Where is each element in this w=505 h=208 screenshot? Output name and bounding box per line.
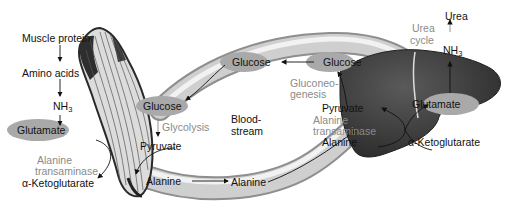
muscle-pyruvate-label: Pyruvate <box>140 141 181 152</box>
nh3-text: NH <box>53 100 68 112</box>
liver-glutamate-label: Glutamate <box>412 99 460 110</box>
liver-glucose-label: Glucose <box>323 57 362 68</box>
urea-cycle-label-line2: cycle <box>410 35 434 46</box>
muscle-enzyme-label-line2: transaminase <box>35 166 98 177</box>
muscle-nh3-label: NH3 <box>53 101 72 114</box>
liver-enzyme-label-line1: Alanine <box>313 115 348 126</box>
gluconeogenesis-label-line1: Gluconeo- <box>290 78 338 89</box>
bloodstream-label-line1: Blood- <box>231 114 261 125</box>
glycolysis-label: Glycolysis <box>162 122 209 133</box>
liver-enzyme-label-line2: transaminase <box>313 126 376 137</box>
muscle-glutamate-label: Glutamate <box>17 125 65 136</box>
liver-a-ketoglutarate-label: α-Ketoglutarate <box>408 137 480 148</box>
muscle-a-ketoglutarate-label: α-Ketoglutarate <box>22 178 94 189</box>
nh3-text: NH <box>443 44 458 56</box>
liver-nh3-label: NH3 <box>443 45 462 58</box>
glucose-alanine-cycle-diagram: Muscle protein Amino acids NH3 Glutamate… <box>0 0 505 208</box>
urea-cycle-label-line1: Urea <box>412 23 435 34</box>
amino-acids-label: Amino acids <box>22 68 79 79</box>
bloodstream-glucose-label: Glucose <box>232 57 271 68</box>
nh3-subscript: 3 <box>458 49 462 58</box>
bloodstream-alanine-label: Alanine <box>231 177 266 188</box>
muscle-glucose-label: Glucose <box>143 101 182 112</box>
muscle-protein-label: Muscle protein <box>22 33 90 44</box>
liver-pyruvate-label: Pyruvate <box>322 103 363 114</box>
muscle-enzyme-label-line1: Alanine <box>37 155 72 166</box>
muscle-alanine-label: Alanine <box>146 176 181 187</box>
liver-alanine-label: Alanine <box>322 137 357 148</box>
urea-label: Urea <box>445 11 468 22</box>
nh3-subscript: 3 <box>68 105 72 114</box>
gluconeogenesis-label-line2: genesis <box>290 89 326 100</box>
bloodstream-label-line2: stream <box>231 126 263 137</box>
